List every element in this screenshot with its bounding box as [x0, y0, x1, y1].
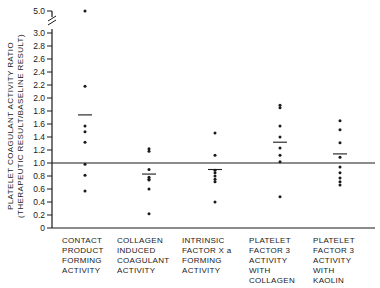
- data-point: [84, 189, 87, 192]
- category-label-line: KAOLIN: [313, 276, 355, 286]
- y-tick-label: 3.0: [33, 28, 45, 38]
- category-label-line: ACTIVITY: [313, 256, 355, 266]
- data-point: [279, 147, 282, 150]
- data-point: [148, 168, 151, 171]
- category-label-pf3-kaolin: PLATELETFACTOR 3ACTIVITYWITHKAOLIN: [313, 236, 355, 286]
- category-label-line: FACTOR 3: [249, 246, 295, 256]
- data-point: [214, 180, 217, 183]
- data-points: [84, 10, 342, 216]
- y-tick-label: 0.6: [33, 184, 45, 194]
- category-label-line: PLATELET: [313, 236, 355, 246]
- y-tick-label: 5.0: [33, 6, 45, 16]
- category-label-line: FACTOR 3: [313, 246, 355, 256]
- y-tick-label: 2.2: [33, 80, 45, 90]
- data-point: [339, 180, 342, 183]
- y-tick-label: 1.6: [33, 119, 45, 129]
- category-label-line: PLATELET: [249, 236, 295, 246]
- data-point: [339, 171, 342, 174]
- category-label-pf3-collagen: PLATELETFACTOR 3ACTIVITYWITHCOLLAGEN: [249, 236, 295, 286]
- data-point: [84, 174, 87, 177]
- category-label-line: COLLAGEN: [249, 276, 295, 286]
- data-point: [148, 150, 151, 153]
- category-label-line: ACTIVITY: [62, 266, 104, 276]
- data-point: [279, 104, 282, 107]
- data-point: [84, 141, 87, 144]
- data-point: [279, 136, 282, 139]
- y-axis: 00.20.40.60.81.01.21.41.61.82.02.22.42.6…: [33, 6, 56, 233]
- data-point: [214, 178, 217, 181]
- data-point: [339, 184, 342, 187]
- y-tick-label: 0.2: [33, 210, 45, 220]
- data-point: [214, 171, 217, 174]
- y-tick-label: 1.4: [33, 132, 45, 142]
- data-point: [339, 141, 342, 144]
- category-label-line: ACTIVITY: [249, 256, 295, 266]
- category-label-line: CONTACT: [62, 236, 104, 246]
- y-tick-label: 1.2: [33, 145, 45, 155]
- category-label-line: INTRINSIC: [182, 236, 232, 246]
- data-point: [148, 178, 151, 181]
- mean-markers: [78, 115, 347, 174]
- category-label-line: FACTOR X a: [182, 246, 232, 256]
- category-label-line: ACTIVITY: [182, 266, 232, 276]
- data-point: [214, 132, 217, 135]
- category-label-line: WITH: [249, 266, 295, 276]
- category-label-line: INDUCED: [117, 246, 170, 256]
- data-point: [339, 165, 342, 168]
- data-point: [339, 156, 342, 159]
- category-label-line: FORMING: [62, 256, 104, 266]
- category-label-collagen-induced: COLLAGENINDUCEDCOAGULANTACTIVITY: [117, 236, 170, 276]
- y-axis-title: PLATELET COAGULANT ACTIVITY RATIO (THERA…: [6, 34, 25, 218]
- category-label-contact-product: CONTACTPRODUCTFORMINGACTIVITY: [62, 236, 104, 276]
- category-label-line: PRODUCT: [62, 246, 104, 256]
- y-tick-label: 1.8: [33, 106, 45, 116]
- y-axis-title-line-1: PLATELET COAGULANT ACTIVITY RATIO: [6, 42, 15, 210]
- y-tick-label: 2.6: [33, 54, 45, 64]
- category-label-line: FORMING: [182, 256, 232, 266]
- data-point: [84, 10, 87, 13]
- data-point: [214, 154, 217, 157]
- data-point: [214, 175, 217, 178]
- category-label-intrinsic-factor-xa: INTRINSICFACTOR X aFORMINGACTIVITY: [182, 236, 232, 276]
- y-tick-label: 0: [40, 223, 45, 233]
- data-point: [339, 128, 342, 131]
- y-tick-label: 2.8: [33, 41, 45, 51]
- y-tick-label: 0.8: [33, 171, 45, 181]
- category-label-line: COAGULANT: [117, 256, 170, 266]
- category-label-line: WITH: [313, 266, 355, 276]
- data-point: [84, 130, 87, 133]
- data-point: [339, 176, 342, 179]
- data-point: [84, 85, 87, 88]
- data-point: [339, 119, 342, 122]
- data-point: [279, 160, 282, 163]
- data-point: [279, 195, 282, 198]
- data-point: [148, 212, 151, 215]
- data-point: [279, 124, 282, 127]
- y-tick-label: 1.0: [33, 158, 45, 168]
- data-point: [148, 188, 151, 191]
- data-point: [84, 163, 87, 166]
- y-tick-label: 2.0: [33, 93, 45, 103]
- data-point: [148, 147, 151, 150]
- data-point: [279, 106, 282, 109]
- y-tick-label: 0.4: [33, 197, 45, 207]
- data-point: [84, 124, 87, 127]
- data-point: [214, 201, 217, 204]
- category-label-line: ACTIVITY: [117, 266, 170, 276]
- y-axis-title-line-2: (THERAPEUTIC RESULT/BASELINE RESULT): [16, 34, 25, 218]
- category-label-line: COLLAGEN: [117, 236, 170, 246]
- y-tick-label: 2.4: [33, 67, 45, 77]
- data-point: [279, 154, 282, 157]
